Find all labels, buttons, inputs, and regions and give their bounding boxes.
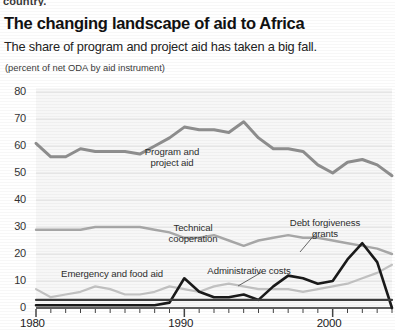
y-axis-tick-0: 0 xyxy=(2,301,26,313)
y-axis-tick-30: 30 xyxy=(2,220,26,232)
y-axis-tick-70: 70 xyxy=(2,112,26,124)
annotation-technical: Technicalcooperation xyxy=(133,222,253,244)
annotation-line-1: Program and xyxy=(112,146,232,157)
annotation-line-1: Emergency and food aid xyxy=(52,268,172,279)
annotation-emergency-and-food-aid: Emergency and food aid xyxy=(52,268,172,279)
annotation-program-and: Program andproject aid xyxy=(112,146,232,168)
chart-subtitle: The share of program and project aid has… xyxy=(4,39,317,54)
y-axis-tick-20: 20 xyxy=(2,247,26,259)
annotation-line-1: Administrative costs xyxy=(189,265,309,276)
y-axis-tick-60: 60 xyxy=(2,139,26,151)
y-axis-tick-40: 40 xyxy=(2,193,26,205)
annotation-administrative-costs: Administrative costs xyxy=(189,265,309,276)
chart-title: The changing landscape of aid to Africa xyxy=(4,14,304,33)
x-axis-label-1980: 1980 xyxy=(20,317,45,329)
annotation-line-2: cooperation xyxy=(133,233,253,244)
annotation-line-2: project aid xyxy=(112,157,232,168)
x-axis-label-1990: 1990 xyxy=(168,317,193,329)
annotation-line-1: Debt forgiveness xyxy=(265,217,385,228)
annotation-line-2: grants xyxy=(265,228,385,239)
chart-units-note: (percent of net ODA by aid instrument) xyxy=(5,62,165,73)
y-axis-tick-80: 80 xyxy=(2,85,26,97)
x-axis-label-2000: 2000 xyxy=(317,317,342,329)
annotation-line-1: Technical xyxy=(133,222,253,233)
annotation-debt-forgiveness: Debt forgivenessgrants xyxy=(265,217,385,239)
y-axis-tick-50: 50 xyxy=(2,166,26,178)
y-axis-tick-10: 10 xyxy=(2,274,26,286)
cut-off-body-text: country. xyxy=(3,0,46,6)
